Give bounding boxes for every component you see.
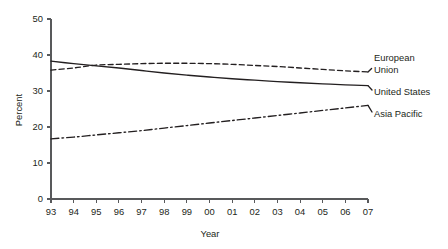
x-axis-ticks (51, 199, 368, 203)
x-tick-label: 00 (204, 206, 214, 217)
y-axis: 01020304050 (33, 13, 51, 204)
y-axis-title: Percent (13, 93, 24, 126)
y-tick-label: 20 (33, 121, 43, 132)
y-axis-tick-labels: 01020304050 (33, 13, 43, 204)
y-axis-ticks (47, 19, 51, 199)
x-axis-title: Year (201, 228, 220, 239)
legend-label-line2: Union (374, 64, 415, 76)
x-tick-label: 06 (340, 206, 350, 217)
legend-label-asia-pacific: Asia Pacific (374, 108, 422, 120)
x-tick-label: 98 (159, 206, 169, 217)
legend-label-european-union: European Union (374, 52, 415, 75)
legend-label-line1: European (374, 52, 415, 64)
x-tick-label: 97 (136, 206, 146, 217)
x-tick-label: 04 (295, 206, 305, 217)
series-leader-asia-pacific (368, 105, 372, 112)
series-leader-european-union (368, 68, 372, 72)
line-chart-plot: 01020304050 9394959697989900010203040506… (0, 0, 448, 249)
y-tick-label: 50 (33, 13, 43, 24)
x-axis: 939495969798990001020304050607 (46, 199, 373, 217)
x-tick-label: 99 (182, 206, 192, 217)
y-tick-label: 0 (38, 193, 43, 204)
data-series-group (51, 61, 372, 139)
y-tick-label: 30 (33, 85, 43, 96)
x-tick-label: 05 (317, 206, 327, 217)
x-tick-label: 07 (363, 206, 373, 217)
y-tick-label: 40 (33, 49, 43, 60)
legend-label-line1: United States (374, 86, 430, 98)
series-line-european-union (51, 63, 368, 72)
legend-label-line1: Asia Pacific (374, 108, 422, 120)
x-tick-label: 95 (91, 206, 101, 217)
x-tick-label: 93 (46, 206, 56, 217)
legend-label-united-states: United States (374, 86, 430, 98)
series-line-united-states (51, 61, 368, 85)
x-axis-tick-labels: 939495969798990001020304050607 (46, 206, 373, 217)
x-tick-label: 94 (68, 206, 78, 217)
chart-container: 01020304050 9394959697989900010203040506… (0, 0, 448, 249)
series-leader-united-states (368, 86, 372, 90)
x-tick-label: 02 (250, 206, 260, 217)
x-tick-label: 01 (227, 206, 237, 217)
series-line-asia-pacific (51, 105, 368, 138)
x-tick-label: 96 (114, 206, 124, 217)
x-tick-label: 03 (272, 206, 282, 217)
y-tick-label: 10 (33, 157, 43, 168)
